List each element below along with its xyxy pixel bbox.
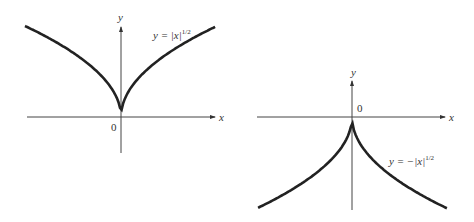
figure-canvas <box>0 0 474 222</box>
left-equation-label: y = |x|1/2 <box>153 29 191 41</box>
right-equation-label: y = −|x|1/2 <box>389 155 434 167</box>
left-chart <box>25 26 215 153</box>
right-origin-label: 0 <box>357 103 363 114</box>
right-x-axis-label: x <box>449 112 454 123</box>
right-chart <box>257 81 447 210</box>
left-origin-label: 0 <box>111 122 117 133</box>
left-x-axis-label: x <box>219 112 224 123</box>
right-y-axis-label: y <box>351 67 356 78</box>
left-y-axis-label: y <box>118 12 123 23</box>
